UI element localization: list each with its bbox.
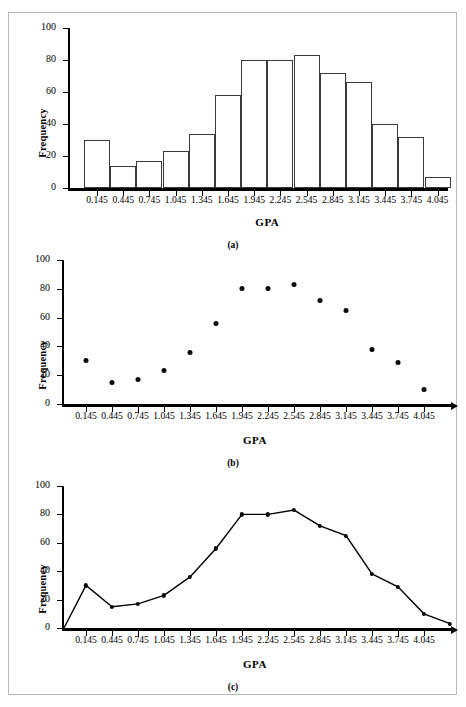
y-tick-label: 20: [24, 368, 50, 379]
y-tick-label: 20: [30, 149, 56, 160]
histogram-bar: [84, 140, 110, 188]
figure-page: Frequency GPA (a) 0204060801000.1450.445…: [0, 0, 466, 707]
histogram-bar: [398, 137, 424, 188]
y-tick-mark: [63, 92, 68, 93]
y-tick-mark: [57, 404, 62, 405]
x-tick-label: 0.445: [101, 410, 123, 421]
panel-a-y-axis: [68, 28, 70, 190]
y-tick-label: 60: [24, 311, 50, 322]
histogram-bar: [267, 60, 293, 188]
histogram-bar: [372, 124, 398, 188]
x-tick-label: 1.345: [179, 410, 201, 421]
y-tick-label: 40: [24, 339, 50, 350]
x-tick-label: 2.845: [309, 410, 331, 421]
histogram-bar: [215, 95, 241, 188]
x-tick-label: 1.045: [153, 410, 175, 421]
y-tick-mark: [63, 28, 68, 29]
scatter-point: [110, 380, 115, 385]
panel-a-caption: (a): [227, 240, 238, 250]
x-tick-label: 3.445: [361, 410, 383, 421]
x-tick-label: 2.245: [270, 194, 292, 205]
histogram-bar: [163, 151, 189, 188]
scatter-point: [162, 368, 167, 373]
x-tick-label: 2.545: [283, 410, 305, 421]
x-tick-label: 0.445: [112, 194, 134, 205]
scatter-point: [240, 286, 245, 291]
scatter-point: [188, 350, 193, 355]
y-tick-mark: [57, 346, 62, 347]
panel-b-x-axis-arrow: [451, 402, 458, 410]
scatter-point: [84, 358, 89, 363]
x-tick-label: 1.645: [205, 410, 227, 421]
y-tick-label: 80: [24, 282, 50, 293]
y-tick-mark: [57, 289, 62, 290]
x-tick-label: 0.745: [127, 410, 149, 421]
panel-b-y-axis: [62, 260, 64, 406]
panel-b-x-axis: [62, 404, 452, 407]
panel-a-x-axis: [68, 188, 448, 191]
histogram-bar: [189, 134, 215, 188]
y-tick-mark: [57, 260, 62, 261]
scatter-point: [344, 308, 349, 313]
y-tick-label: 0: [24, 397, 50, 408]
y-tick-mark: [63, 156, 68, 157]
scatter-point: [266, 286, 271, 291]
histogram-bar: [346, 82, 372, 188]
x-tick-label: 0.145: [86, 194, 108, 205]
x-tick-label: 0.145: [75, 410, 97, 421]
scatter-point: [214, 321, 219, 326]
panel-a-histogram: Frequency GPA (a) 0204060801000.1450.445…: [0, 18, 466, 248]
x-tick-label: 4.045: [427, 194, 449, 205]
scatter-point: [370, 347, 375, 352]
histogram-bar: [425, 177, 451, 188]
x-tick-label: 3.145: [335, 410, 357, 421]
histogram-bar: [294, 55, 320, 188]
scatter-point: [292, 282, 297, 287]
x-tick-label: 4.045: [413, 410, 435, 421]
y-tick-label: 40: [30, 117, 56, 128]
x-tick-label: 2.545: [296, 194, 318, 205]
x-tick-label: 0.745: [139, 194, 161, 205]
x-tick-label: 1.945: [243, 194, 265, 205]
panel-c-frequency-polygon: Frequency GPA (c) 0204060801000.1450.445…: [0, 478, 466, 700]
scatter-point: [136, 377, 141, 382]
panel-b-caption: (b): [227, 458, 239, 468]
x-tick-label: 1.945: [231, 410, 253, 421]
y-tick-label: 80: [30, 53, 56, 64]
panel-b-scatter: Frequency GPA (b) 0204060801000.1450.445…: [0, 252, 466, 477]
y-tick-mark: [57, 375, 62, 376]
y-tick-mark: [63, 60, 68, 61]
histogram-bar: [110, 166, 136, 188]
x-tick-label: 1.045: [165, 194, 187, 205]
y-tick-label: 100: [24, 253, 50, 264]
x-tick-label: 3.745: [387, 410, 409, 421]
x-tick-label: 2.845: [322, 194, 344, 205]
scatter-point: [396, 360, 401, 365]
y-tick-label: 60: [30, 85, 56, 96]
y-tick-mark: [63, 124, 68, 125]
histogram-bar: [320, 73, 346, 188]
x-tick-label: 2.245: [257, 410, 279, 421]
scatter-point: [318, 298, 323, 303]
x-tick-label: 1.645: [217, 194, 239, 205]
x-tick-label: 1.345: [191, 194, 213, 205]
histogram-bar: [136, 161, 162, 188]
y-tick-label: 0: [30, 181, 56, 192]
y-tick-mark: [57, 318, 62, 319]
x-tick-label: 3.745: [401, 194, 423, 205]
panel-a-x-axis-label: GPA: [255, 216, 279, 228]
y-tick-mark: [63, 188, 68, 189]
histogram-bar: [241, 60, 267, 188]
y-tick-label: 100: [30, 21, 56, 32]
scatter-point: [422, 387, 427, 392]
panel-b-x-axis-label: GPA: [243, 434, 267, 446]
x-tick-label: 3.145: [348, 194, 370, 205]
x-tick-label: 3.445: [374, 194, 396, 205]
